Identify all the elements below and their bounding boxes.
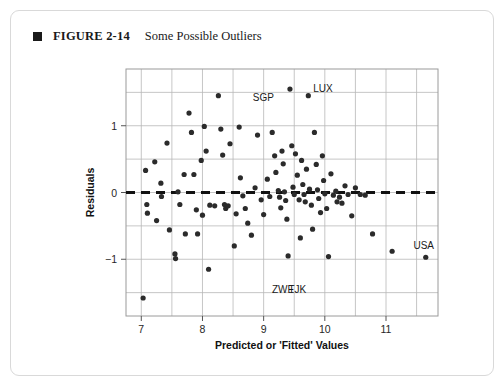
data-point [175,189,180,194]
data-point [322,191,327,196]
data-point [204,149,209,154]
data-point [206,267,211,272]
data-point [306,93,311,98]
data-point [243,206,248,211]
data-point [309,203,314,208]
data-point [177,202,182,207]
data-point [290,185,295,190]
data-point [232,243,237,248]
data-point [199,158,204,163]
data-point [423,255,428,260]
data-point [310,227,315,232]
data-point [255,132,260,137]
data-point [186,110,191,115]
data-point [227,141,232,146]
data-point [158,181,163,186]
data-point [334,199,339,204]
data-point [173,256,178,261]
data-point [293,151,298,156]
x-axis-title: Predicted or 'Fitted' Values [215,339,349,351]
data-point [314,162,319,167]
point-annotation-label: TJK [288,284,306,295]
data-point [164,141,169,146]
data-point [200,213,205,218]
data-point [298,235,303,240]
data-point [363,193,368,198]
data-point [216,93,221,98]
data-point [270,130,275,135]
y-tick-label: 1 [111,120,117,132]
data-point [353,185,358,190]
y-tick-label: 0 [111,187,117,199]
data-point [337,195,342,200]
data-point [252,185,257,190]
data-point [265,177,270,182]
data-point [267,194,272,199]
data-point [189,130,194,135]
data-point [326,254,331,259]
data-point [301,192,306,197]
y-axis-title: Residuals [84,168,96,218]
data-point [172,251,177,256]
data-point [183,231,188,236]
data-point [159,194,164,199]
scatter-plot: 789101110−1 SGPLUXUSAZWETJK Predicted or… [11,11,495,377]
data-point [289,143,294,148]
data-point [284,217,289,222]
data-point [300,182,305,187]
data-point [143,168,148,173]
data-point [304,167,309,172]
data-point [152,159,157,164]
data-point [299,158,304,163]
x-tick-label: 8 [200,323,206,335]
data-point [318,210,323,215]
data-point [315,187,320,192]
data-point [191,172,196,177]
data-point [333,189,338,194]
data-point [339,201,344,206]
data-point [358,192,363,197]
point-annotation-label: USA [413,240,434,251]
data-point [282,189,287,194]
data-point [286,253,291,258]
x-tick-label: 9 [261,323,267,335]
data-point [261,212,266,217]
data-point [272,153,277,158]
data-point [202,124,207,129]
point-annotation-label: SGP [253,92,274,103]
data-point [273,170,278,175]
data-point [321,178,326,183]
data-point [207,203,212,208]
y-tick-label: −1 [105,253,117,265]
data-point [342,183,347,188]
data-point [259,197,264,202]
data-point [283,198,288,203]
x-tick-label: 10 [319,323,331,335]
data-point [234,211,239,216]
data-point [182,172,187,177]
plot-canvas: 789101110−1 SGPLUXUSAZWETJK Predicted or… [11,11,495,377]
data-point [277,195,282,200]
figure-card: FIGURE 2-14 Some Possible Outliers 78910… [10,10,494,376]
data-point [279,149,284,154]
data-point [307,187,312,192]
data-point [324,206,329,211]
data-point [154,218,159,223]
data-point [144,202,149,207]
data-point [194,207,199,212]
data-point [328,171,333,176]
data-point [249,233,254,238]
data-point [145,211,150,216]
data-point [345,192,350,197]
data-point [278,205,283,210]
data-point [218,126,223,131]
x-tick-label: 11 [381,323,392,335]
x-tick-label: 7 [138,323,144,335]
data-point [237,124,242,129]
data-point [349,213,354,218]
data-point [295,173,300,178]
data-point [320,153,325,158]
data-point [312,130,317,135]
data-point [226,203,231,208]
data-point [303,199,308,204]
